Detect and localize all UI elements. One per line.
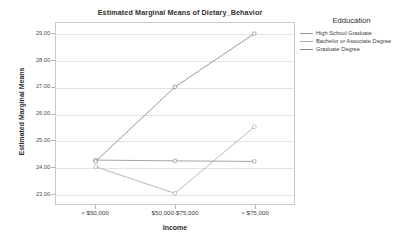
data-point-marker: [252, 125, 256, 129]
y-tick-label: 25.00: [18, 137, 50, 143]
data-point-marker: [252, 160, 256, 164]
y-tick-label: 26.00: [18, 110, 50, 116]
data-point-marker: [173, 85, 177, 89]
x-tick-label: $50,000-$75,000: [135, 209, 215, 216]
plot-area: [55, 22, 295, 205]
legend-line-swatch: [300, 33, 313, 35]
y-tick-label: 23.00: [18, 191, 50, 197]
legend-item[interactable]: Graduate Degree: [300, 46, 403, 53]
y-tick-label: 29.00: [18, 30, 50, 36]
estimated-marginal-means-chart: Estimated Marginal Means of Dietary_Beha…: [0, 0, 403, 246]
series-line: [96, 34, 255, 162]
data-point-marker: [94, 165, 98, 169]
x-tick-label: < $50,000: [55, 209, 135, 216]
data-point-marker: [173, 191, 177, 195]
legend-title: Edducation: [300, 16, 403, 25]
chart-title: Estimated Marginal Means of Dietary_Beha…: [60, 8, 300, 17]
legend-line-swatch: [300, 49, 313, 51]
data-point-marker: [94, 160, 98, 164]
legend: Edducation High School GraduateBachelor …: [300, 16, 403, 54]
data-point-marker: [252, 32, 256, 36]
x-tick-label: > $75,000: [215, 209, 295, 216]
legend-item[interactable]: Bachelor or Associate Degree: [300, 38, 403, 45]
y-tick-label: 28.00: [18, 57, 50, 63]
legend-item[interactable]: High School Graduate: [300, 30, 403, 37]
legend-item-label: High School Graduate: [316, 30, 372, 37]
legend-line-swatch: [300, 41, 313, 43]
data-point-marker: [173, 159, 177, 163]
y-tick-label: 27.00: [18, 83, 50, 89]
legend-item-label: Bachelor or Associate Degree: [316, 38, 391, 45]
series-layer: [56, 23, 294, 204]
x-axis-title: Income: [55, 224, 295, 231]
y-tick-label: 24.00: [18, 164, 50, 170]
legend-items: High School GraduateBachelor or Associat…: [300, 30, 403, 53]
legend-item-label: Graduate Degree: [316, 46, 360, 53]
